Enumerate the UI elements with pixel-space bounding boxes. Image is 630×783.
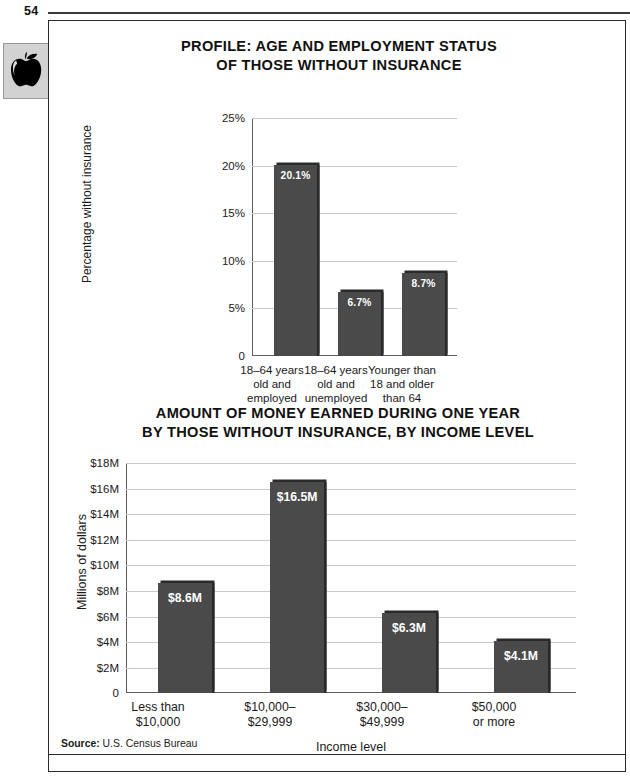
page-number: 54	[24, 4, 38, 18]
header-rule	[48, 12, 630, 14]
chart-2: Millions of dollars $18M $16M $14M $12M …	[49, 453, 627, 753]
chart-2-bar: $8.6M	[158, 583, 212, 693]
chart-1-bar-value: 20.1%	[274, 170, 317, 181]
chart-2-gridline	[126, 540, 576, 541]
chart-2-y-tick: $6M	[49, 611, 119, 623]
chart-1-y-tick: 25%	[199, 112, 245, 124]
chart-2-category-line: $50,000	[436, 700, 552, 715]
chart-1-y-tick: 5%	[199, 302, 245, 314]
chart-2-y-tick: $10M	[49, 559, 119, 571]
chart-2-title-line2: BY THOSE WITHOUT INSURANCE, BY INCOME LE…	[59, 423, 617, 442]
chart-1-y-tick: 10%	[199, 255, 245, 267]
chart-1-title: PROFILE: AGE AND EMPLOYMENT STATUS OF TH…	[109, 37, 569, 74]
chart-2-bar-value: $6.3M	[382, 621, 436, 635]
chart-2-gridline	[126, 489, 576, 490]
chart-2-y-tick: $2M	[49, 662, 119, 674]
chart-2-category-line: or more	[436, 715, 552, 730]
chart-1-title-line1: PROFILE: AGE AND EMPLOYMENT STATUS	[109, 37, 569, 56]
chart-1-y-axis	[252, 118, 253, 356]
chart-2-bar: $4.1M	[494, 641, 548, 694]
chart-2-category-label: $10,000– $29,999	[212, 700, 328, 730]
chart-2-gridline	[126, 514, 576, 515]
chart-2-category-line: $49,999	[324, 715, 440, 730]
apple-icon	[3, 43, 49, 99]
chart-2-category-line: $10,000–	[212, 700, 328, 715]
content-frame: PROFILE: AGE AND EMPLOYMENT STATUS OF TH…	[48, 20, 626, 772]
chart-2-y-axis	[126, 463, 127, 693]
chart-1-y-tick: 20%	[199, 160, 245, 172]
chart-2-bar-value: $16.5M	[270, 490, 324, 504]
chart-1-y-tick: 0	[199, 350, 245, 362]
chart-2-category-line: $30,000–	[324, 700, 440, 715]
chart-2-y-tick: 0	[49, 687, 119, 699]
chart-2-y-tick: $18M	[49, 457, 119, 469]
chart-2-y-tick: $14M	[49, 508, 119, 520]
chart-1-category-line: Younger than	[354, 363, 450, 377]
chart-2-y-tick: $8M	[49, 585, 119, 597]
source-note: Source: U.S. Census Bureau	[61, 738, 197, 749]
chart-1-y-tick: 15%	[199, 207, 245, 219]
chart-1-bar: 8.7%	[402, 273, 445, 356]
source-text: U.S. Census Bureau	[103, 738, 198, 749]
chart-2-category-label: $30,000– $49,999	[324, 700, 440, 730]
chart-2-y-tick: $4M	[49, 636, 119, 648]
chart-1-category-line: than 64	[354, 391, 450, 405]
chart-2-gridline	[126, 463, 576, 464]
chart-1-title-line2: OF THOSE WITHOUT INSURANCE	[109, 56, 569, 75]
chart-2-category-line: Less than	[100, 700, 216, 715]
chart-2-title-line1: AMOUNT OF MONEY EARNED DURING ONE YEAR	[59, 404, 617, 423]
chart-2-bar-value: $4.1M	[494, 649, 548, 663]
chart-1-bar: 20.1%	[274, 165, 317, 356]
chart-1: Percentage without insurance 25% 20% 15%…	[49, 91, 627, 381]
chart-1-y-axis-title: Percentage without insurance	[80, 99, 94, 309]
chart-2-y-tick: $12M	[49, 534, 119, 546]
chart-1-bar: 6.7%	[338, 292, 381, 356]
chart-1-category-label: Younger than 18 and older than 64	[354, 363, 450, 405]
source-label: Source:	[61, 738, 100, 749]
source-divider	[49, 754, 625, 755]
chart-1-gridline	[252, 118, 457, 119]
chart-2-bar: $6.3M	[382, 613, 436, 694]
chart-1-category-line: 18 and older	[354, 377, 450, 391]
chart-1-bar-value: 8.7%	[402, 278, 445, 289]
chart-2-category-label: $50,000 or more	[436, 700, 552, 730]
chart-2-plot-area: $8.6M $16.5M $6.3M $4.1M	[126, 463, 576, 693]
chart-2-category-line: $29,999	[212, 715, 328, 730]
chart-2-title: AMOUNT OF MONEY EARNED DURING ONE YEAR B…	[59, 404, 617, 441]
chart-2-bar-value: $8.6M	[158, 591, 212, 605]
chart-2-category-line: $10,000	[100, 715, 216, 730]
chart-2-category-label: Less than $10,000	[100, 700, 216, 730]
chart-2-gridline	[126, 565, 576, 566]
chart-1-plot-area: 20.1% 6.7% 8.7%	[252, 118, 457, 356]
chart-2-y-tick: $16M	[49, 483, 119, 495]
chart-1-bar-value: 6.7%	[338, 297, 381, 308]
chart-2-bar: $16.5M	[270, 482, 324, 693]
